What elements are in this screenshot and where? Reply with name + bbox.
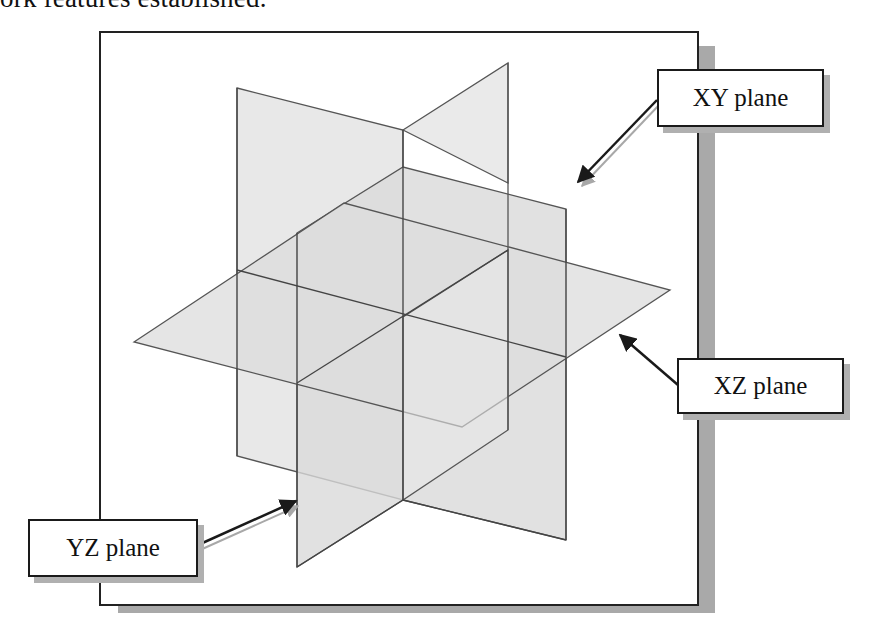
xy-leader-arrow bbox=[578, 100, 660, 186]
yz-leader-arrow bbox=[198, 501, 298, 550]
yz-plane-label: YZ plane bbox=[28, 519, 198, 577]
xz-plane-label: XZ plane bbox=[677, 358, 844, 414]
xy-plane-label: XY plane bbox=[657, 69, 824, 127]
xz-plane[interactable] bbox=[134, 203, 670, 427]
xz-leader-arrow bbox=[620, 335, 678, 385]
